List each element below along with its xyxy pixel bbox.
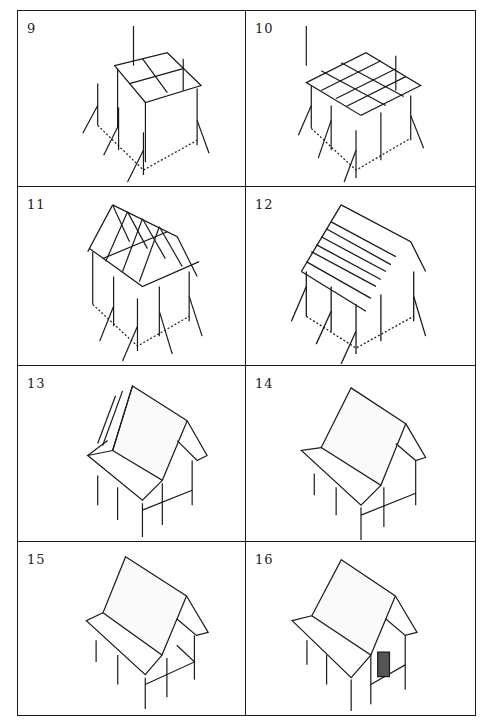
figure-grid: 9 10 11 (17, 10, 476, 716)
roof-battens-stage-12-illustration (246, 187, 475, 365)
panel-10: 10 (246, 11, 475, 187)
house-frame-stage-10-illustration (246, 11, 475, 186)
panel-14: 14 (246, 366, 475, 542)
panel-11: 11 (18, 187, 246, 366)
thatched-roof-stage-14-illustration (246, 366, 475, 541)
panel-12: 12 (246, 187, 475, 366)
panel-16: 16 (246, 542, 475, 715)
house-frame-stage-9-illustration (18, 11, 245, 186)
roof-rafters-stage-11-illustration (18, 187, 245, 365)
completed-house-stage-16-illustration (246, 542, 475, 715)
panel-9: 9 (18, 11, 246, 187)
panel-13: 13 (18, 366, 246, 542)
thatching-stage-13-illustration (18, 366, 245, 541)
finished-roof-stage-15-illustration (18, 542, 245, 715)
panel-15: 15 (18, 542, 246, 715)
